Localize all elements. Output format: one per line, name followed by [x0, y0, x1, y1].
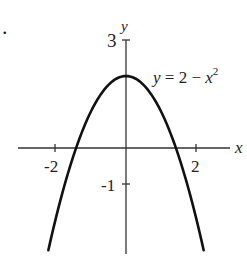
equation-label: y = 2 − x2 — [151, 65, 218, 87]
equation-y: y — [151, 68, 161, 87]
parabola-chart: . 3 y -1 -2 2 x y = 2 − x2 — [0, 0, 247, 268]
y-tick-label-minus1: -1 — [101, 176, 115, 195]
x-axis-label: x — [234, 138, 243, 157]
x-tick-label-2: 2 — [191, 157, 200, 176]
y-axis-label: y — [119, 18, 128, 34]
equation-middle: = 2 − — [161, 68, 206, 87]
equation-exponent: 2 — [213, 65, 219, 77]
x-tick-label-minus2: -2 — [44, 157, 58, 176]
y-tick-label-3: 3 — [107, 30, 117, 51]
problem-bullet: . — [2, 14, 8, 39]
